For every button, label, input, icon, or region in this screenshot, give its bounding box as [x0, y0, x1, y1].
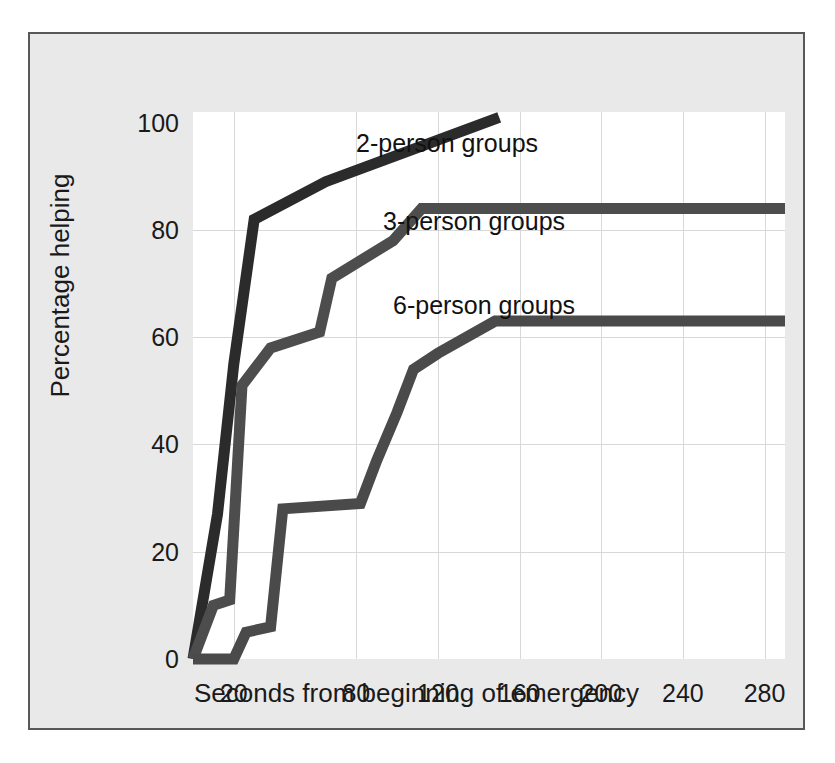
- y-axis-tick-label: 40: [109, 432, 179, 457]
- y-axis-tick-label: 80: [109, 218, 179, 243]
- series-label: 2-person groups: [356, 129, 538, 158]
- series-label: 6-person groups: [393, 291, 575, 320]
- series-label: 3-person groups: [383, 207, 565, 236]
- y-axis-title: Percentage helping: [45, 146, 76, 426]
- x-axis-title: Seconds from beginning of emergency: [28, 678, 805, 709]
- series-line: [193, 321, 785, 659]
- y-axis-tick-label: 60: [109, 325, 179, 350]
- y-axis-tick-label: 20: [109, 540, 179, 565]
- series-line: [193, 209, 785, 660]
- y-axis-tick-label: 0: [109, 647, 179, 672]
- y-axis-tick-label: 100: [109, 111, 179, 136]
- chart-figure: 020406080100 2080120160200240280 2-perso…: [0, 0, 835, 763]
- series-lines-svg: [193, 112, 785, 659]
- chart-frame: 020406080100 2080120160200240280 2-perso…: [28, 32, 805, 730]
